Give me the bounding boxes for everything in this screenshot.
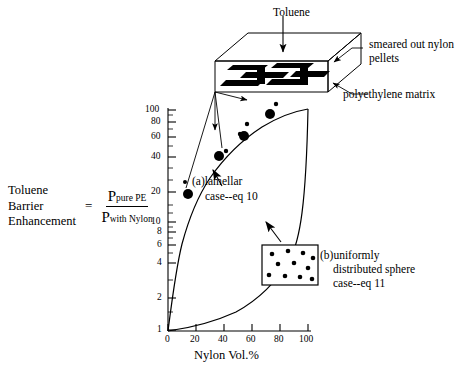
smeared-nylon-label-line1: smeared out nylon bbox=[369, 38, 454, 51]
equation-left-line3: Enhancement bbox=[8, 214, 76, 230]
ytick-label-100: 100 bbox=[145, 104, 159, 115]
ytick-label-6: 6 bbox=[157, 239, 162, 250]
ytick-label-2: 2 bbox=[157, 292, 162, 303]
equation-left-text: Toluene Barrier Enhancement bbox=[8, 183, 76, 230]
toluene-label: Toluene bbox=[273, 6, 310, 19]
ytick-label-8: 8 bbox=[157, 226, 162, 237]
equals-sign: = bbox=[85, 198, 92, 214]
ytick-label-60: 60 bbox=[151, 131, 161, 142]
ytick-label-20: 20 bbox=[151, 186, 161, 197]
denominator-p: P bbox=[101, 209, 109, 225]
ytick-label-40: 40 bbox=[151, 151, 161, 162]
case-b-label-line2: distributed sphere bbox=[333, 262, 415, 277]
case-b-pointer-arrow bbox=[266, 222, 281, 242]
case-b-label-line1: (b)uniformly bbox=[320, 248, 379, 263]
figure-root: Toluene smeared out nylon pellets polyet… bbox=[0, 0, 470, 374]
case-a-label-line1: (a)lamellar bbox=[192, 174, 242, 189]
pressure-ratio-fraction: Ppure PE Pwith Nylon bbox=[99, 187, 154, 226]
xtick-label-20: 20 bbox=[190, 334, 200, 345]
fraction-numerator: Ppure PE bbox=[106, 187, 149, 207]
ytick-label-1: 1 bbox=[157, 324, 162, 335]
smeared-nylon-label-line2: pellets bbox=[369, 52, 399, 65]
numerator-subscript: pure PE bbox=[116, 193, 146, 203]
equation-block: Toluene Barrier Enhancement = Ppure PE P… bbox=[8, 183, 155, 230]
case-a-label-line2: case--eq 10 bbox=[205, 189, 258, 204]
curve-lamellar-eq10 bbox=[168, 109, 308, 331]
xtick-label-80: 80 bbox=[274, 334, 284, 345]
data-points-small bbox=[183, 102, 278, 184]
nylon-lamellae-platelets bbox=[220, 63, 330, 86]
numerator-p: P bbox=[108, 188, 116, 204]
xtick-label-40: 40 bbox=[218, 334, 228, 345]
denominator-subscript: with Nylon bbox=[110, 214, 153, 224]
ytick-label-4: 4 bbox=[157, 257, 162, 268]
equation-left-line1: Toluene bbox=[8, 183, 76, 199]
case-b-label-line3: case--eq 11 bbox=[333, 276, 385, 291]
equation-left-line2: Barrier bbox=[8, 199, 76, 215]
xtick-label-0: 0 bbox=[165, 334, 170, 345]
xtick-label-100: 100 bbox=[299, 334, 313, 345]
sphere-inset-box bbox=[262, 245, 318, 285]
polyethylene-matrix-label: polyethylene matrix bbox=[343, 88, 435, 101]
xtick-label-60: 60 bbox=[246, 334, 256, 345]
x-axis-title: Nylon Vol.% bbox=[194, 348, 259, 362]
fraction-denominator: Pwith Nylon bbox=[99, 207, 154, 226]
ytick-label-80: 80 bbox=[151, 116, 161, 127]
